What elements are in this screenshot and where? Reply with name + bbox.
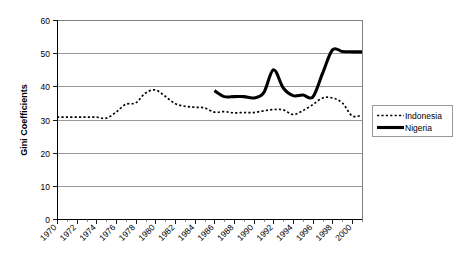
x-tick-label-1990: 1990 — [235, 222, 256, 243]
x-axis: 1970197219741976197819801982198419861988… — [38, 219, 363, 243]
x-tick-label-1978: 1978 — [117, 222, 138, 243]
chart-legend: Indonesia Nigeria — [372, 105, 452, 136]
y-tick-label-20: 20 — [41, 149, 51, 159]
gini-coefficients-chart: 0102030405060 19701972197419761978198019… — [0, 0, 457, 264]
y-tick-label-60: 60 — [41, 16, 51, 26]
x-tick-label-1976: 1976 — [97, 222, 118, 243]
x-tick-label-1984: 1984 — [176, 222, 197, 243]
x-tick-label-1992: 1992 — [254, 222, 275, 243]
y-tick-label-10: 10 — [41, 182, 51, 192]
y-axis-title: Gini Coefficients — [19, 84, 29, 156]
x-tick-label-1974: 1974 — [77, 222, 98, 243]
chart-canvas: 0102030405060 19701972197419761978198019… — [0, 0, 457, 264]
x-tick-label-1994: 1994 — [274, 222, 295, 243]
y-tick-label-40: 40 — [41, 82, 51, 92]
plot-area-background — [57, 20, 362, 219]
x-tick-label-2000: 2000 — [333, 222, 354, 243]
x-tick-label-1998: 1998 — [313, 222, 334, 243]
x-tick-label-1996: 1996 — [294, 222, 315, 243]
y-axis: 0102030405060 — [41, 16, 57, 225]
legend-label-nigeria: Nigeria — [405, 123, 432, 133]
x-tick-label-1986: 1986 — [195, 222, 216, 243]
x-tick-label-1980: 1980 — [136, 222, 157, 243]
y-tick-label-30: 30 — [41, 116, 51, 126]
x-tick-label-1982: 1982 — [156, 222, 177, 243]
x-tick-label-1970: 1970 — [38, 222, 59, 243]
x-tick-label-1972: 1972 — [58, 222, 79, 243]
legend-label-indonesia: Indonesia — [405, 111, 442, 121]
y-tick-label-50: 50 — [41, 49, 51, 59]
x-tick-label-1988: 1988 — [215, 222, 236, 243]
